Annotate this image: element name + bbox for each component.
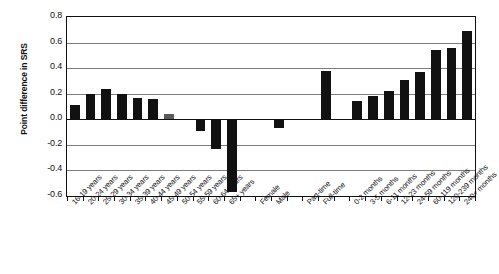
y-axis-tick-label: 0.6 — [26, 37, 62, 46]
plot-area — [66, 16, 476, 197]
y-axis-tick-label: 0.8 — [26, 11, 62, 20]
y-axis-tick-label: 0.2 — [26, 88, 62, 97]
bar — [196, 119, 206, 131]
bar — [148, 99, 158, 119]
bar — [447, 48, 457, 120]
bar — [384, 91, 394, 119]
bar — [368, 96, 378, 119]
bar — [400, 80, 410, 120]
y-axis-tick-labels: 0.80.60.40.20.0-0.2-0.4-0.6 — [26, 11, 62, 197]
x-axis-tick-labels: 16-19 years20-24 years25-29 years30-34 y… — [66, 198, 476, 274]
y-axis-tick-label: 0.4 — [26, 62, 62, 71]
bar — [431, 50, 441, 119]
bar — [70, 105, 80, 119]
y-axis-tick-label: -0.4 — [26, 164, 62, 173]
y-axis-tick-label: -0.6 — [26, 190, 62, 199]
bar — [117, 94, 127, 120]
y-axis-tick-label: 0.0 — [26, 113, 62, 122]
bar — [415, 72, 425, 119]
bar — [462, 31, 472, 119]
bar — [86, 94, 96, 120]
bar — [101, 89, 111, 120]
bar — [274, 119, 284, 128]
bar — [211, 119, 221, 148]
bar — [164, 114, 174, 119]
bar — [352, 101, 362, 119]
bar-series — [67, 17, 475, 196]
y-axis-tick-label: -0.2 — [26, 139, 62, 148]
bar — [133, 98, 143, 120]
bar — [321, 71, 331, 120]
